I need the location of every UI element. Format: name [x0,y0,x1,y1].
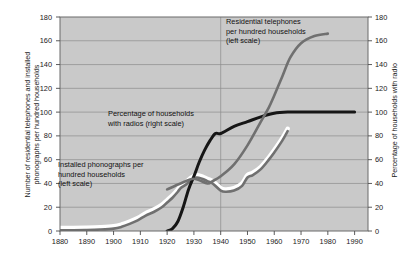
annotation-line: Percentage of households [108,109,194,119]
x-tick-label: 1900 [101,237,127,246]
x-tick-label: 1950 [234,237,260,246]
y-tick-left-label: 120 [30,84,52,93]
y-tick-left-label: 40 [30,179,52,188]
y-tick-left-label: 160 [30,36,52,45]
annotation-phonograph: Installed phonographs perhundred househo… [58,160,143,189]
x-tick-label: 1890 [74,237,100,246]
x-tick-label: 1910 [127,237,153,246]
x-tick-label: 1980 [315,237,341,246]
y-tick-left-label: 140 [30,60,52,69]
y-tick-right-label: 120 [375,84,399,93]
annotation-line: hundred households [58,170,143,180]
x-tick-label: 1970 [288,237,314,246]
y-tick-right-label: 80 [375,131,399,140]
y-tick-left-label: 60 [30,155,52,164]
y-tick-left-label: 20 [30,203,52,212]
y-tick-right-label: 20 [375,203,399,212]
x-tick-label: 1920 [154,237,180,246]
plot-background [60,17,368,231]
y-tick-right-label: 100 [375,108,399,117]
annotation-line: (left scale) [226,36,306,46]
x-tick-label: 1930 [181,237,207,246]
annotation-line: (left scale) [58,179,143,189]
annotation-line: with radios (right scale) [108,119,194,129]
annotation-line: per hundred households [226,27,306,37]
y-tick-left-label: 0 [30,227,52,236]
y-tick-right-label: 40 [375,179,399,188]
chart-container: Number of residential telephones and ins… [0,0,417,258]
y-tick-left-label: 180 [30,13,52,22]
y-tick-right-label: 140 [375,60,399,69]
x-tick-label: 1960 [261,237,287,246]
y-tick-left-label: 100 [30,108,52,117]
y-tick-left-label: 80 [30,131,52,140]
annotation-line: Installed phonographs per [58,160,143,170]
annotation-telephone: Residential telephonesper hundred househ… [226,17,306,46]
x-tick-label: 1880 [47,237,73,246]
x-tick-label: 1940 [208,237,234,246]
plot-area [0,0,417,258]
y-tick-right-label: 180 [375,13,399,22]
x-tick-label: 1990 [342,237,368,246]
y-tick-right-label: 160 [375,36,399,45]
annotation-radio: Percentage of householdswith radios (rig… [108,109,194,128]
y-tick-right-label: 60 [375,155,399,164]
annotation-line: Residential telephones [226,17,306,27]
y-tick-right-label: 0 [375,227,399,236]
